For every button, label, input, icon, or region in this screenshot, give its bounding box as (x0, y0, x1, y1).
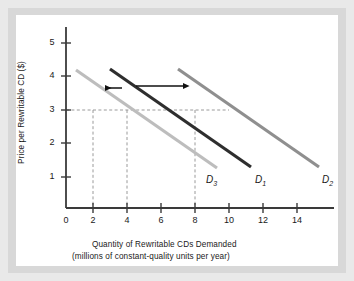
demand-curves (76, 69, 319, 168)
demand-curve-d2 (178, 69, 319, 167)
axes (61, 27, 334, 213)
curve-label-d1-subscript: 1 (262, 180, 266, 187)
y-tick-label-2: 2 (44, 137, 60, 147)
curve-label-d3-subscript: 3 (213, 180, 217, 187)
curve-label-d3: D3 (206, 174, 217, 187)
y-tick-label-3: 3 (44, 104, 60, 114)
curve-label-d2-subscript: 2 (329, 180, 333, 187)
y-tick-label-5: 5 (44, 37, 60, 47)
x-tick-label-10: 10 (221, 215, 237, 225)
y-tick-label-4: 4 (44, 70, 60, 80)
curve-label-d2: D2 (322, 174, 333, 187)
demand-curve-d3 (76, 70, 217, 168)
y-axis-title: Price per Rewritable CD ($) (17, 48, 26, 178)
x-axis-title-line1: Quantity of Rewritable CDs Demanded (92, 240, 237, 249)
curve-label-d1: D1 (255, 174, 266, 187)
x-tick-label-14: 14 (289, 215, 305, 225)
figure-container: 5 4 3 2 1 0 2 4 6 8 10 12 14 Price per R… (0, 0, 354, 281)
x-tick-label-8: 8 (187, 215, 203, 225)
x-tick-label-2: 2 (85, 215, 101, 225)
shift-arrows (106, 86, 184, 88)
x-tick-label-4: 4 (119, 215, 135, 225)
demand-curve-d1 (110, 69, 251, 167)
x-tick-label-12: 12 (255, 215, 271, 225)
x-tick-label-6: 6 (153, 215, 169, 225)
y-tick-label-1: 1 (44, 171, 60, 181)
x-axis-title-line2: (millions of constant-quality units per … (72, 252, 230, 261)
x-tick-label-0: 0 (58, 215, 74, 225)
